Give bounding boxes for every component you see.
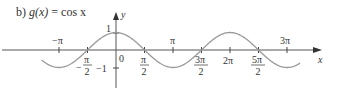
x-axis-label: x (317, 54, 323, 65)
y-axis-label: y (120, 9, 126, 20)
x-tick-label-half-pi: π 2 (140, 54, 149, 77)
svg-text:π: π (141, 54, 146, 65)
x-tick-label-2pi: 2π (223, 55, 233, 66)
cosine-plot: y x 1 −1 0 −π π 3π 2π − π 2 π 2 3π 2 5π … (0, 0, 341, 92)
svg-text:2: 2 (256, 66, 261, 77)
origin-label: 0 (119, 53, 124, 64)
svg-text:π: π (84, 54, 89, 65)
y-axis-arrow-icon (113, 12, 119, 20)
x-tick-label-3-half-pi: 3π 2 (194, 54, 208, 77)
y-tick-label-neg1: −1 (96, 63, 107, 74)
x-tick-label-5-half-pi: 5π 2 (251, 54, 265, 77)
y-tick-label-1: 1 (106, 23, 111, 34)
x-tick-label-3pi: 3π (280, 35, 290, 46)
svg-text:2: 2 (199, 66, 204, 77)
svg-text:3π: 3π (195, 54, 205, 65)
svg-text:−: − (76, 62, 82, 73)
x-tick-label-neg-half-pi: − π 2 (76, 54, 92, 77)
svg-text:5π: 5π (252, 54, 262, 65)
x-tick-label-neg-pi: −π (52, 35, 63, 46)
x-axis-arrow-icon (313, 47, 322, 53)
svg-text:2: 2 (85, 66, 90, 77)
svg-text:2: 2 (142, 66, 147, 77)
x-tick-label-pi: π (170, 35, 175, 46)
